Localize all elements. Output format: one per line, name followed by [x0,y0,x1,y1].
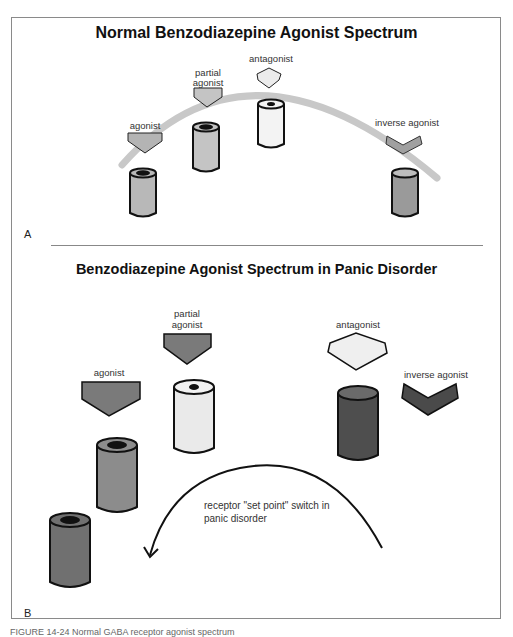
antagonist-receptor-b [338,386,378,460]
partial-agonist-receptor-a [193,123,219,172]
agonist-receptor-a [130,169,156,217]
partial-agonist-receptor-b [174,380,214,453]
partial-agonist-label-a-line2: agonist [190,77,226,88]
agonist-receptor-b [97,438,137,512]
inverse-agonist-label-a: inverse agonist [375,117,435,128]
antagonist-ligand-b [328,333,387,370]
agonist-label-a: agonist [128,120,162,131]
antagonist-receptor-a [258,100,284,148]
panel-b-title: Benzodiazepine Agonist Spectrum in Panic… [0,261,513,277]
figure-caption: FIGURE 14-24 Normal GABA receptor agonis… [10,627,235,637]
antagonist-ligand-a [257,68,281,88]
panel-divider [51,245,483,246]
partial-agonist-label-b-line2: agonist [169,319,205,330]
switch-label-line2: panic disorder [204,513,267,524]
antagonist-label-a: antagonist [248,53,294,64]
panel-a-title: Normal Benzodiazepine Agonist Spectrum [0,24,513,42]
agonist-ligand-b [82,382,140,416]
inverse-agonist-ligand-b [402,384,458,415]
agonist-label-b: agonist [92,367,126,378]
panel-b-letter: B [24,607,31,619]
inverse-agonist-ligand-a [386,136,422,154]
switch-label-line1: receptor "set point" switch in [204,500,330,511]
partial-agonist-ligand-b [164,334,211,364]
antagonist-label-b: antagonist [335,319,381,330]
inverse-agonist-receptor-a [392,169,418,217]
shifted-receptor-b [50,513,90,587]
partial-agonist-label-b-line1: partial [169,308,205,319]
inverse-agonist-label-b: inverse agonist [404,369,466,380]
panel-a-letter: A [24,228,31,240]
figure-artwork [0,0,513,637]
